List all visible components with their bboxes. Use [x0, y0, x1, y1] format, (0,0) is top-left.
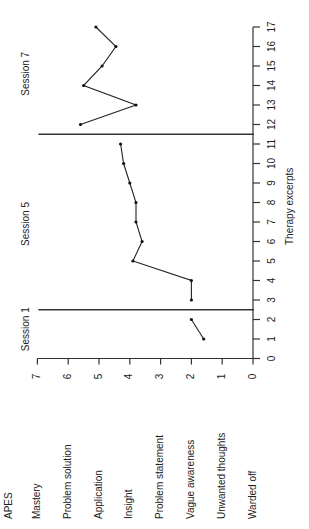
apes-category-label: Problem solution — [62, 445, 73, 519]
series-line — [121, 144, 192, 300]
session-label: Session 1 — [20, 307, 31, 351]
data-point — [131, 259, 134, 262]
apes-title: APES — [3, 492, 14, 519]
apes-tick-label: 3 — [154, 373, 165, 379]
excerpt-tick-label: 5 — [266, 258, 277, 264]
excerpt-tick-label: 9 — [266, 180, 277, 186]
apes-category-label: Warded off — [247, 470, 258, 519]
apes-tick-label: 7 — [31, 373, 42, 379]
apes-category-label: Insight — [123, 489, 134, 519]
excerpt-tick-label: 15 — [266, 60, 277, 72]
data-point — [94, 25, 97, 28]
excerpt-tick-label: 11 — [266, 138, 277, 149]
apes-tick-label: 5 — [93, 373, 104, 379]
excerpt-tick-label: 14 — [266, 80, 277, 92]
data-point — [119, 142, 122, 145]
excerpt-tick-label: 8 — [266, 199, 277, 205]
data-point — [122, 162, 125, 165]
excerpt-tick-label: 13 — [266, 99, 277, 111]
apes-tick-label: 6 — [62, 373, 73, 379]
session-label: Session 5 — [20, 202, 31, 246]
axes — [37, 27, 260, 365]
data-point — [100, 64, 103, 67]
apes-category-label: Unwanted thoughts — [216, 433, 227, 519]
apes-tick-label: 2 — [185, 373, 196, 379]
data-point — [190, 279, 193, 282]
apes-tick-label: 1 — [216, 373, 227, 379]
series-line — [81, 27, 137, 125]
apes-tick-label: 0 — [247, 373, 258, 379]
excerpt-tick-label: 16 — [266, 41, 277, 53]
apes-tick-label: 4 — [123, 373, 134, 379]
excerpt-tick-label: 0 — [266, 355, 277, 361]
chart-labels: 0123456701234567891011121314151617Therap… — [3, 21, 295, 519]
apes-category-label: Vague awareness — [185, 440, 196, 519]
data-point — [141, 240, 144, 243]
excerpt-tick-label: 4 — [266, 277, 277, 283]
apes-category-label: Application — [93, 470, 104, 519]
apes-line-chart: 0123456701234567891011121314151617Therap… — [0, 0, 309, 529]
data-point — [190, 298, 193, 301]
data-series — [79, 25, 205, 340]
excerpt-tick-label: 10 — [266, 158, 277, 170]
data-point — [114, 45, 117, 48]
data-point — [128, 181, 131, 184]
excerpt-tick-label: 6 — [266, 238, 277, 244]
excerpt-tick-label: 3 — [266, 297, 277, 303]
data-point — [79, 123, 82, 126]
data-point — [134, 201, 137, 204]
session-label: Session 7 — [20, 51, 31, 95]
x-axis-title: Therapy excerpts — [284, 168, 295, 245]
data-point — [190, 318, 193, 321]
excerpt-tick-label: 17 — [266, 21, 277, 33]
apes-category-label: Problem statement — [154, 435, 165, 519]
excerpt-tick-label: 1 — [266, 336, 277, 342]
data-point — [82, 84, 85, 87]
excerpt-tick-label: 7 — [266, 219, 277, 225]
excerpt-tick-label: 12 — [266, 119, 277, 131]
data-point — [134, 220, 137, 223]
excerpt-tick-label: 2 — [266, 316, 277, 322]
session-dividers — [38, 134, 254, 310]
data-point — [202, 337, 205, 340]
data-point — [134, 103, 137, 106]
apes-category-label: Mastery — [31, 483, 42, 519]
series-line — [191, 320, 203, 340]
